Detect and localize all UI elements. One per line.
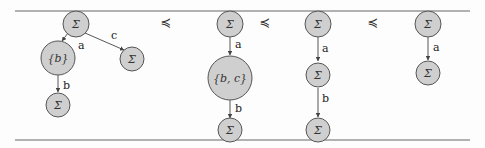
edge-label: b xyxy=(63,79,70,92)
edge-label: a xyxy=(322,42,329,55)
tree-1: a c b Σ {b} Σ Σ xyxy=(41,11,144,117)
node-label: Σ xyxy=(225,18,234,31)
node-label: Σ xyxy=(423,67,432,80)
edge-label: b xyxy=(235,102,242,115)
edge-label: a xyxy=(78,39,85,52)
preorder-symbol: ≼ xyxy=(260,15,271,30)
tree-2: a b Σ {b, c} Σ xyxy=(208,11,252,142)
node-label: Σ xyxy=(313,18,322,31)
node-label: Σ xyxy=(225,124,234,137)
node-label: Σ xyxy=(423,18,432,31)
node-label: {b} xyxy=(47,52,68,65)
tree-3: a b Σ Σ Σ xyxy=(305,11,331,142)
edge-label: c xyxy=(111,29,117,42)
tree-4: a Σ Σ xyxy=(415,11,441,85)
edge-a xyxy=(62,33,68,41)
preorder-symbol: ≼ xyxy=(161,15,172,30)
node-label: Σ xyxy=(313,69,322,82)
edge-label: a xyxy=(433,41,440,54)
node-label: Σ xyxy=(53,99,62,112)
edge-label: a xyxy=(235,38,242,51)
preorder-symbol: ≼ xyxy=(368,15,379,30)
edge-c xyxy=(85,33,124,50)
node-label: Σ xyxy=(71,18,80,31)
node-label: Σ xyxy=(313,124,322,137)
tree-ordering-diagram: a c b Σ {b} Σ Σ ≼ a b Σ {b, c} Σ ≼ a b Σ xyxy=(0,0,485,148)
node-label: {b, c} xyxy=(213,72,247,85)
edge-label: b xyxy=(322,92,329,105)
node-label: Σ xyxy=(127,53,136,66)
